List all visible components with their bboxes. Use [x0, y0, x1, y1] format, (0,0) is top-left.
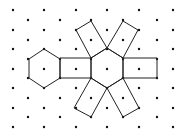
- grid-dot: [43, 9, 45, 11]
- grid-dot: [12, 126, 14, 128]
- grid-dot: [106, 68, 108, 70]
- grid-dot: [27, 116, 29, 118]
- grid-dot: [90, 97, 92, 99]
- grid-dot: [75, 48, 77, 50]
- grid-dot: [43, 126, 45, 128]
- grid-dot: [106, 107, 108, 109]
- grid-dot: [59, 97, 61, 99]
- grid-dot: [138, 68, 140, 70]
- grid-dot: [172, 48, 174, 50]
- grid-dot: [156, 39, 158, 41]
- grid-dot: [12, 107, 14, 109]
- grid-dot: [138, 48, 140, 50]
- grid-dot: [43, 29, 45, 31]
- right-square: [123, 58, 157, 78]
- grid-dot: [172, 87, 174, 89]
- grid-dot: [106, 29, 108, 31]
- grid-dot: [27, 19, 29, 21]
- grid-dot: [27, 97, 29, 99]
- grid-dot: [27, 39, 29, 41]
- grid-dot: [12, 9, 14, 11]
- grid-dot: [90, 39, 92, 41]
- grid-dot: [172, 29, 174, 31]
- grid-dot: [122, 39, 124, 41]
- grid-dot: [12, 48, 14, 50]
- grid-dot: [156, 116, 158, 118]
- grid-dot: [172, 107, 174, 109]
- grid-dot: [12, 87, 14, 89]
- grid-dot: [138, 126, 140, 128]
- grid-dot: [75, 87, 77, 89]
- grid-dot: [138, 9, 140, 11]
- grid-dot: [59, 116, 61, 118]
- grid-dot: [156, 97, 158, 99]
- grid-dot: [59, 19, 61, 21]
- dot-grid: [12, 9, 174, 128]
- grid-dot: [43, 107, 45, 109]
- grid-dot: [75, 9, 77, 11]
- grid-dot: [75, 68, 77, 70]
- grid-dot: [172, 68, 174, 70]
- dot-grid-diagram: [0, 0, 184, 136]
- grid-dot: [122, 97, 124, 99]
- grid-dot: [172, 126, 174, 128]
- grid-dot: [43, 68, 45, 70]
- grid-dot: [156, 19, 158, 21]
- grid-dot: [138, 87, 140, 89]
- grid-dot: [106, 126, 108, 128]
- grid-dot: [106, 9, 108, 11]
- grid-dot: [172, 9, 174, 11]
- grid-dot: [12, 68, 14, 70]
- grid-dot: [12, 29, 14, 31]
- grid-dot: [59, 39, 61, 41]
- grid-dot: [75, 126, 77, 128]
